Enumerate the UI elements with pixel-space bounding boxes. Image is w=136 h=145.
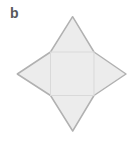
pyramid-net-star-outline — [17, 17, 126, 131]
pyramid-net-diagram — [0, 0, 136, 145]
